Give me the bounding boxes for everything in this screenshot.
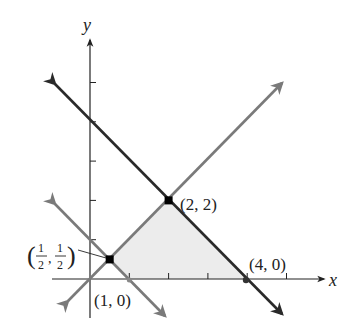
label-2-2: (2, 2) [180,195,217,214]
point-2-2 [165,196,173,204]
svg-text:(: ( [27,241,36,270]
y-axis-label: y [81,15,91,35]
svg-text:1: 1 [57,241,63,255]
point-half-half [106,255,114,263]
diagram: y x (2, 2) (4, 0) (1, 0) ( 1 2 , 1 2 ) [0,0,355,334]
point-1-0 [127,278,132,283]
graph: y x (2, 2) (4, 0) (1, 0) ( 1 2 , 1 2 ) [0,0,355,334]
svg-text:2: 2 [57,258,63,272]
svg-text:1: 1 [38,241,44,255]
svg-text:): ) [67,241,76,270]
y-ticks [90,83,96,240]
label-4-0: (4, 0) [249,255,286,274]
label-1-0: (1, 0) [94,291,131,310]
svg-text:,: , [48,251,52,266]
svg-text:2: 2 [38,258,44,272]
feasible-region [110,200,248,279]
label-half-half: ( 1 2 , 1 2 ) [27,241,76,272]
x-axis-label: x [328,270,337,290]
point-4-0 [243,277,249,283]
